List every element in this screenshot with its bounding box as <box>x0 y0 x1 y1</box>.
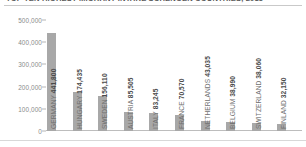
bar-value-label: 43,035 <box>204 56 211 77</box>
bar-category-label: BELGIUM 38,990 <box>229 76 236 129</box>
bar-value-label: 38,060 <box>255 58 262 79</box>
bar-category-name: FINLAND <box>280 98 287 129</box>
bar-category-name: SWEDEN <box>101 98 108 129</box>
y-axis-tick-label: 300,000 <box>18 61 42 68</box>
y-axis-tick-mark <box>42 20 46 21</box>
bar-value-label: 83,245 <box>152 89 159 110</box>
bar-category-name: NETHERLANDS <box>204 77 211 129</box>
bar-category-name: FRANCE <box>178 99 185 129</box>
y-axis-tick-mark <box>42 86 46 87</box>
y-axis-tick-mark <box>42 42 46 43</box>
chart-title: TOP TEN HIGHEST MIGRANT INTAKE SCHENGEN … <box>6 0 302 3</box>
bar-value-label: 38,990 <box>229 76 236 97</box>
bar-category-label: HUNGARY 174,435 <box>76 69 83 129</box>
bar-category-label: SWITZERLAND 38,060 <box>255 58 262 129</box>
y-axis-tick-label: 100,000 <box>18 105 42 112</box>
bar-value-label: 70,570 <box>178 79 185 100</box>
y-axis-tick-mark <box>42 108 46 109</box>
y-axis-tick-label: 200,000 <box>18 83 42 90</box>
bar-category-name: SWITZERLAND <box>255 79 262 129</box>
bar-category-name: HUNGARY <box>76 94 83 129</box>
bar-category-label: NETHERLANDS 43,035 <box>204 56 211 129</box>
title-divider <box>4 5 302 6</box>
bar-category-label: GERMANY 441,800 <box>50 69 57 129</box>
bar-category-name: AUSTRIA <box>127 98 134 129</box>
bar-category-name: GERMANY <box>50 93 57 129</box>
bar-category-name: BELGIUM <box>229 97 236 129</box>
bar-category-label: FINLAND 32,150 <box>280 77 287 129</box>
y-axis-tick-label: 400,000 <box>18 39 42 46</box>
bar-value-label: 174,435 <box>76 69 83 94</box>
x-axis-line <box>46 130 302 131</box>
y-axis-tick-label: 500,000 <box>18 17 42 24</box>
bar-value-label: 85,505 <box>127 77 134 98</box>
bar-category-name: ITALY <box>152 109 159 129</box>
bar-category-label: SWEDEN 156,110 <box>101 73 108 129</box>
bar-category-label: ITALY 83,245 <box>152 89 159 129</box>
bar-category-label: FRANCE 70,570 <box>178 79 185 129</box>
bar-chart-figure: TOP TEN HIGHEST MIGRANT INTAKE SCHENGEN … <box>0 0 306 147</box>
bar-value-label: 441,800 <box>50 69 57 94</box>
bottom-divider <box>0 140 306 141</box>
bar-value-label: 156,110 <box>101 73 108 97</box>
plot-area: 500,000400,000300,000200,000100,0000 GER… <box>46 20 302 131</box>
bar-value-label: 32,150 <box>280 77 287 98</box>
y-axis-tick-mark <box>42 64 46 65</box>
bar-category-label: AUSTRIA 85,505 <box>127 77 134 129</box>
